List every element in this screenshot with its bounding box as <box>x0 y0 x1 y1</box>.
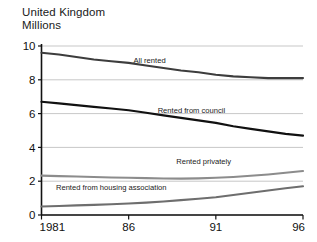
x-tick-label-91: 91 <box>209 221 222 233</box>
y-tick-label-4: 4 <box>29 142 36 154</box>
y-axis-group: 0246810 <box>23 40 42 221</box>
x-tick-label-86: 86 <box>122 221 135 233</box>
series-label-rented-privately: Rented privately <box>176 157 231 166</box>
x-tick-label-96: 96 <box>292 221 305 233</box>
series-label-all-rented: All rented <box>134 56 166 65</box>
chart-container: United Kingdom Millions 0246810 19818691… <box>0 0 317 242</box>
series-label-rented-from-council: Rented from council <box>158 106 226 115</box>
line-chart-plot: 0246810 1981869196 All rentedRented from… <box>0 0 317 242</box>
series-labels-group: All rentedRented from councilRented priv… <box>56 56 231 193</box>
y-tick-label-8: 8 <box>29 74 35 86</box>
y-tick-label-0: 0 <box>29 209 35 221</box>
y-tick-label-6: 6 <box>29 108 35 120</box>
series-line-all-rented <box>42 53 304 78</box>
x-tick-label-1981: 1981 <box>40 221 66 233</box>
x-axis-group: 1981869196 <box>40 215 306 233</box>
series-label-rented-from-housing-association: Rented from housing association <box>56 183 167 192</box>
series-line-rented-privately <box>42 171 304 179</box>
y-tick-label-10: 10 <box>23 40 36 52</box>
y-tick-label-2: 2 <box>29 175 35 187</box>
